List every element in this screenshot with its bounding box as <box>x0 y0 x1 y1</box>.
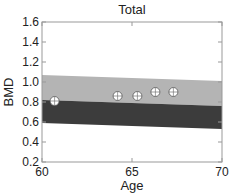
data-point-marker <box>151 88 160 97</box>
x-axis-label: Age <box>120 178 143 193</box>
y-tick-label: 1.4 <box>22 35 39 49</box>
data-point-marker <box>113 92 122 101</box>
y-tick-label: 0.4 <box>22 135 39 149</box>
data-point-marker <box>50 97 59 106</box>
y-axis-label: BMD <box>1 78 16 107</box>
chart-title: Total <box>118 2 146 17</box>
data-point-marker <box>133 92 142 101</box>
x-tick-label: 60 <box>35 165 49 179</box>
y-tick-label: 1.6 <box>22 15 39 29</box>
data-point-marker <box>169 88 178 97</box>
y-tick-label: 0.8 <box>22 95 39 109</box>
x-tick-label: 70 <box>215 165 229 179</box>
reference-bands <box>42 75 222 129</box>
x-tick-label: 65 <box>125 165 139 179</box>
bmd-chart: Total 0.20.40.60.81.01.21.41.6606570 Age… <box>0 0 234 194</box>
y-tick-label: 1.2 <box>22 55 39 69</box>
y-tick-label: 0.6 <box>22 115 39 129</box>
y-tick-label: 1.0 <box>22 75 39 89</box>
